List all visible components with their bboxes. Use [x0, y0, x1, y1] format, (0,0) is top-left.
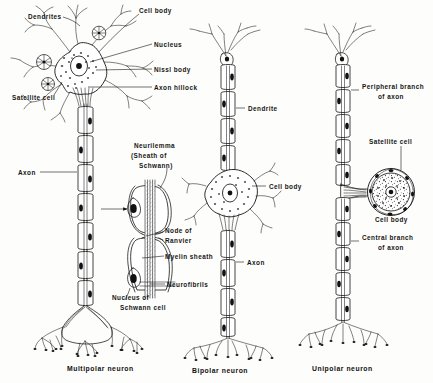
label-dendrite-mid: Dendrite [248, 105, 278, 112]
label-neurilemma-line1: Neurilemma [134, 142, 175, 149]
label-axon-left: Axon [18, 169, 36, 176]
unipolar-central-branch [336, 198, 350, 323]
caption-bipolar: Bipolar neuron [192, 367, 248, 375]
unipolar-nucleolus [389, 190, 394, 195]
unipolar-peripheral-branch [336, 65, 350, 187]
label-nucleus-schwann-line1: Nucleus of [112, 294, 150, 301]
label-node-of-ranvier-line2: Ranvier [165, 237, 192, 244]
bipolar-dendrite-cap-nucleus [225, 56, 229, 61]
unipolar-dendrite-cap-nucleus [340, 56, 344, 61]
label-central-branch-line2: of axon [378, 244, 404, 251]
label-nucleus: Nucleus [154, 41, 182, 48]
label-axon-hillock: Axon hillock [154, 84, 197, 91]
label-neurilemma-line2: (Sheath of [131, 152, 167, 160]
unipolar-soma-group [368, 169, 415, 216]
label-satellite-cell-left: Satellite cell [12, 94, 55, 101]
label-cell-body-top: Cell body [139, 7, 172, 15]
label-nucleus-schwann-line2: Schwann cell [120, 304, 166, 311]
inset-neurofibrils [145, 180, 155, 298]
caption-multipolar: Multipolar neuron [67, 365, 134, 373]
label-axon-mid: Axon [247, 259, 265, 266]
satellite-cell-3 [92, 26, 106, 40]
multipolar-nucleolus [76, 63, 82, 69]
label-node-of-ranvier-line1: Node of [165, 227, 192, 234]
label-cell-body-mid: Cell body [269, 183, 302, 191]
label-dendrites: Dendrites [28, 13, 62, 20]
neuron-types-figure: Dendrites Cell body Nucleus Nissl body A… [0, 0, 433, 383]
label-nissl-body: Nissl body [154, 66, 191, 74]
bipolar-axon [221, 230, 235, 338]
label-peripheral-branch-line1: Peripheral branch [362, 83, 424, 91]
label-central-branch-line1: Central branch [362, 234, 413, 241]
label-myelin-sheath: Myelin sheath [165, 253, 213, 261]
satellite-cell-2 [42, 78, 55, 91]
label-neurilemma-line3: Schwann) [139, 162, 173, 170]
label-neurofibrils: Neurofibrils [167, 281, 208, 288]
satellite-cell-1 [37, 55, 52, 70]
figure-canvas: Dendrites Cell body Nucleus Nissl body A… [0, 0, 433, 383]
label-cell-body-right: Cell body [375, 216, 408, 224]
label-peripheral-branch-line2: of axon [378, 93, 404, 100]
label-satellite-cell-right: Satellite cell [369, 138, 412, 145]
bipolar-nucleolus [228, 191, 233, 196]
caption-unipolar: Unipolar neuron [312, 365, 373, 373]
